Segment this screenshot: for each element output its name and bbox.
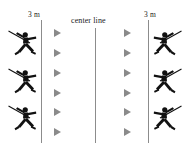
left-marker-3 bbox=[54, 69, 61, 77]
left-boundary-line bbox=[41, 20, 42, 143]
left-athlete-3 bbox=[8, 103, 38, 131]
center-line-label: center line bbox=[71, 17, 106, 25]
right-distance-label: 3 m bbox=[144, 11, 156, 19]
right-marker-5 bbox=[124, 108, 131, 116]
right-marker-1 bbox=[124, 29, 131, 37]
center-line bbox=[95, 28, 96, 143]
javelin-drill-diagram: 3 m center line 3 m bbox=[0, 0, 189, 155]
left-athlete-2 bbox=[8, 66, 38, 94]
left-marker-1 bbox=[54, 29, 61, 37]
left-marker-2 bbox=[54, 49, 61, 57]
left-marker-6 bbox=[54, 128, 61, 136]
left-distance-label: 3 m bbox=[28, 11, 40, 19]
left-athlete-1 bbox=[8, 28, 38, 56]
right-marker-3 bbox=[124, 69, 131, 77]
right-athlete-3 bbox=[152, 103, 182, 131]
right-athlete-2 bbox=[152, 66, 182, 94]
right-athlete-1 bbox=[152, 28, 182, 56]
right-marker-4 bbox=[124, 89, 131, 97]
right-marker-6 bbox=[124, 128, 131, 136]
right-marker-2 bbox=[124, 49, 131, 57]
right-boundary-line bbox=[148, 20, 149, 143]
left-marker-5 bbox=[54, 108, 61, 116]
left-marker-4 bbox=[54, 89, 61, 97]
